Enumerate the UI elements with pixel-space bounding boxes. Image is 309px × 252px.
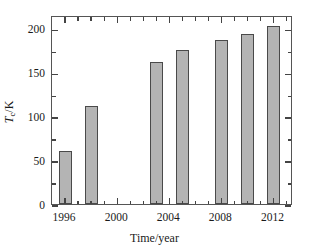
x-axis-minor-tick-top: [208, 17, 209, 21]
x-axis-minor-tick-top: [90, 17, 91, 21]
x-axis-minor-tick: [182, 201, 183, 205]
bar: [215, 40, 228, 204]
bar: [241, 34, 254, 204]
x-axis-minor-tick-top: [130, 17, 131, 21]
y-axis-tick: [52, 205, 58, 206]
x-axis-minor-tick: [195, 201, 196, 205]
y-axis-tick-label: 150: [1, 67, 45, 79]
x-axis-tick-label: 2008: [197, 211, 243, 223]
y-axis-tick: [52, 30, 58, 31]
x-axis-minor-tick-top: [143, 17, 144, 21]
y-axis-tick-right: [285, 117, 291, 118]
x-axis-tick-top: [117, 17, 118, 23]
x-axis-minor-tick: [234, 201, 235, 205]
x-axis-tick-top: [273, 17, 274, 23]
y-axis-tick-label: 200: [1, 23, 45, 35]
y-axis-minor-tick-right: [288, 96, 292, 97]
y-axis-tick: [52, 74, 58, 75]
y-axis-tick-right: [285, 74, 291, 75]
x-axis-minor-tick: [104, 201, 105, 205]
y-axis-minor-tick: [52, 183, 56, 184]
y-axis-tick-label: 50: [1, 155, 45, 167]
y-axis-tick-right: [285, 30, 291, 31]
y-axis-minor-tick: [52, 52, 56, 53]
y-axis-tick-right: [285, 161, 291, 162]
x-axis-tick-top: [169, 17, 170, 23]
x-axis-minor-tick: [208, 201, 209, 205]
y-axis-minor-tick: [52, 96, 56, 97]
bar: [150, 62, 163, 204]
x-axis-tick-label: 2000: [93, 211, 139, 223]
x-axis-minor-tick: [286, 201, 287, 205]
x-axis-minor-tick: [77, 201, 78, 205]
x-axis-minor-tick-top: [195, 17, 196, 21]
x-axis-minor-tick: [247, 201, 248, 205]
x-axis-tick-label: 1996: [41, 211, 87, 223]
y-axis-minor-tick-right: [288, 52, 292, 53]
x-axis-tick: [273, 198, 274, 204]
x-axis-minor-tick-top: [104, 17, 105, 21]
x-axis-tick: [221, 198, 222, 204]
x-axis-minor-tick-top: [247, 17, 248, 21]
bar: [267, 26, 280, 204]
x-axis-minor-tick: [143, 201, 144, 205]
plot-area: [51, 16, 292, 205]
chart-figure: Tc/K Time/year 0501001502001996200020042…: [0, 0, 309, 252]
y-axis-tick-label: 0: [1, 199, 45, 211]
x-axis-tick-label: 2012: [249, 211, 295, 223]
x-axis-tick: [117, 198, 118, 204]
x-axis-tick-top: [64, 17, 65, 23]
y-axis-tick-label: 100: [1, 111, 45, 123]
y-axis-minor-tick-right: [288, 139, 292, 140]
y-axis-minor-tick: [52, 139, 56, 140]
x-axis-minor-tick-top: [234, 17, 235, 21]
x-axis-title: Time/year: [0, 232, 309, 245]
bar: [59, 151, 72, 204]
x-axis-minor-tick-top: [182, 17, 183, 21]
y-axis-minor-tick-right: [288, 183, 292, 184]
bar: [176, 50, 189, 204]
y-axis-tick: [52, 161, 58, 162]
x-axis-minor-tick-top: [260, 17, 261, 21]
x-axis-minor-tick-top: [286, 17, 287, 21]
x-axis-tick: [169, 198, 170, 204]
x-axis-minor-tick-top: [156, 17, 157, 21]
bar: [85, 106, 98, 204]
y-axis-tick-right: [285, 205, 291, 206]
x-axis-minor-tick: [156, 201, 157, 205]
x-axis-minor-tick: [130, 201, 131, 205]
x-axis-tick: [64, 198, 65, 204]
y-axis-tick: [52, 117, 58, 118]
x-axis-tick-label: 2004: [145, 211, 191, 223]
x-axis-tick-top: [221, 17, 222, 23]
x-axis-minor-tick: [260, 201, 261, 205]
x-axis-minor-tick: [90, 201, 91, 205]
x-axis-minor-tick-top: [77, 17, 78, 21]
